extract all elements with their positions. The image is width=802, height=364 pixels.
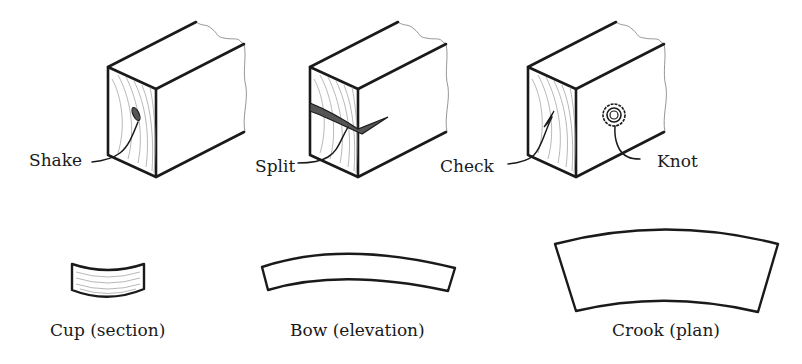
- knot-defect-mark: [603, 104, 625, 126]
- cup-section-shape: [72, 264, 144, 297]
- check-knot-timber-block: [508, 22, 666, 177]
- bow-label: Bow (elevation): [290, 320, 425, 340]
- shake-label: Shake: [29, 150, 82, 170]
- split-label: Split: [255, 156, 295, 176]
- bow-elevation-shape: [262, 254, 455, 291]
- shake-timber-block: [92, 22, 246, 177]
- knot-label: Knot: [657, 151, 698, 171]
- check-label: Check: [440, 156, 495, 176]
- crook-plan-shape: [555, 230, 778, 313]
- split-timber-block: [298, 22, 448, 177]
- cup-label: Cup (section): [50, 320, 165, 340]
- timber-defects-diagram: Shake Split Check Knot Cup (section) Bow…: [0, 0, 802, 364]
- crook-label: Crook (plan): [612, 320, 720, 340]
